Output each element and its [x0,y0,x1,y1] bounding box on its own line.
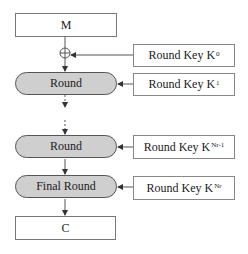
final-round-label: Final Round [36,179,96,194]
key-superscript: Nr [214,182,221,190]
key-superscript: 0 [216,50,220,58]
key-label: Round Key K [144,140,211,155]
key-label: Round Key K [148,77,215,92]
final-round-block: Final Round [15,175,117,198]
round-key-k1: Round Key K1 [133,73,235,96]
key-superscript: Nr-1 [211,141,224,149]
round-key-knr-1: Round Key KNr-1 [133,135,235,159]
input-label: M [61,18,72,33]
key-label: Round Key K [146,181,213,196]
input-block-m: M [15,13,117,37]
key-superscript: 1 [216,79,220,87]
round-block-nr-1: Round [15,135,117,158]
xor-icon [60,48,70,58]
output-label: C [61,221,69,236]
output-block-c: C [15,216,116,240]
round-key-k0: Round Key K0 [133,44,235,67]
round-key-knr: Round Key KNr [133,176,235,200]
round-block-1: Round [15,72,117,95]
round-label: Round [50,76,82,91]
key-label: Round Key K [148,48,215,63]
round-label: Round [50,139,82,154]
